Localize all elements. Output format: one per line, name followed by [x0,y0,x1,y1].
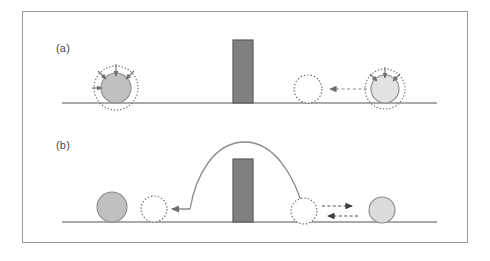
halo-arrow-right-ur [393,74,400,81]
physics-diagram [0,0,490,261]
incoming-particle-right [369,197,395,223]
ghost-particle-launch [291,198,317,224]
halo-arrow-right-ul [370,74,377,81]
ghost-particle-mid [294,75,322,103]
panel-b-label: (b) [56,139,70,151]
panel-b-group [62,142,437,224]
barrier-b [233,159,253,222]
panel-a-group [62,40,437,110]
halo-arrow-upper-left [98,71,106,79]
panel-a-label: (a) [56,42,70,54]
final-particle-left [97,192,127,222]
halo-arrow-upper-right [126,71,134,79]
barrier-a [233,40,253,103]
ghost-particle-landing [141,196,167,222]
particle-body-left [101,73,131,103]
figure-container: (a) (b) [0,0,490,261]
